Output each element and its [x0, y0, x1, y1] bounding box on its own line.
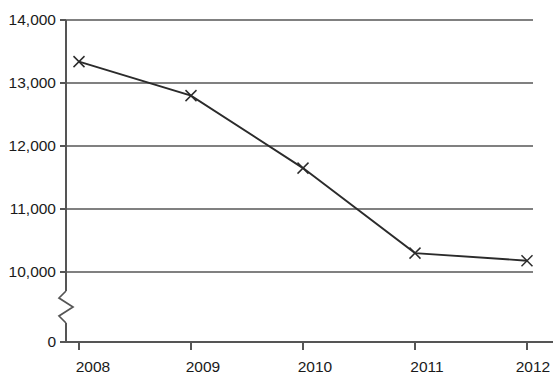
line-chart: 14,000 13,000 12,000 11,000 10,000 0 200…: [0, 0, 553, 379]
series-markers: [74, 56, 533, 266]
data-series: [74, 56, 533, 266]
y-tick-label-13000: 13,000: [9, 74, 57, 91]
y-tick-label-14000: 14,000: [9, 11, 57, 28]
x-axis-tick-labels: 2008 2009 2010 2011 2012: [76, 358, 550, 375]
chart-canvas: 14,000 13,000 12,000 11,000 10,000 0 200…: [0, 0, 553, 379]
y-axis-break-zigzag: [59, 291, 73, 323]
gridlines: [66, 20, 533, 272]
y-tick-label-10000: 10,000: [9, 263, 57, 280]
x-tick-label-2011: 2011: [410, 358, 443, 375]
x-tick-label-2012: 2012: [516, 358, 550, 375]
series-line-path: [79, 62, 527, 261]
data-point-2009: [186, 90, 197, 101]
y-axis-tick-labels: 14,000 13,000 12,000 11,000 10,000 0: [9, 11, 57, 350]
y-tick-label-0: 0: [47, 333, 56, 350]
y-tick-label-12000: 12,000: [9, 137, 57, 154]
y-axis: [59, 20, 73, 342]
y-tick-label-11000: 11,000: [10, 200, 57, 217]
x-tick-label-2009: 2009: [186, 358, 220, 375]
x-tick-label-2010: 2010: [298, 358, 333, 375]
data-point-2010: [298, 163, 309, 174]
x-tick-label-2008: 2008: [76, 358, 110, 375]
data-point-2008: [74, 56, 85, 67]
x-axis-ticks: [79, 342, 527, 350]
